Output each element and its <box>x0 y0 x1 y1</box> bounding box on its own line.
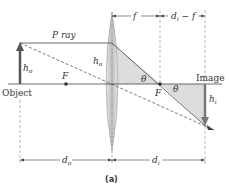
h-o-object-label: ho <box>23 63 33 74</box>
h-o-lens-label: ho <box>93 56 103 67</box>
dim-do-label: do <box>62 155 72 166</box>
object-label: Object <box>2 88 32 98</box>
p-ray-label: P ray <box>51 30 77 40</box>
figure-caption: (a) <box>105 175 118 184</box>
focal-point-left <box>64 82 68 86</box>
image-label: Image <box>196 73 225 83</box>
ray-arrowhead <box>207 125 214 130</box>
dim-f-label: f <box>132 11 138 21</box>
right-triangle <box>160 84 205 125</box>
theta-left-label: θ <box>141 74 147 84</box>
theta-right-label: θ <box>173 84 179 94</box>
dim-di-minus-f-label: di − f <box>171 11 197 22</box>
dim-di-label: di <box>152 155 160 166</box>
lens-diagram: P ray Object Image F F ho ho hi θ θ f di… <box>0 0 229 193</box>
focal-right-label: F <box>154 88 162 98</box>
focal-left-label: F <box>61 71 69 81</box>
focal-point-right <box>158 82 162 86</box>
h-i-label: hi <box>209 94 217 105</box>
